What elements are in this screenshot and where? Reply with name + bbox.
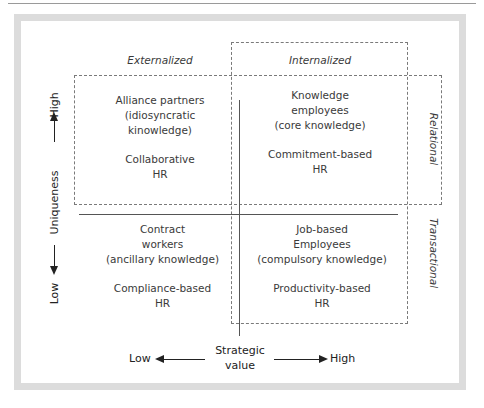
y-axis-arrow-up-line [54, 120, 55, 142]
quadrant-hr-line: Commitment-based [245, 147, 395, 162]
x-axis-label-line2: value [210, 358, 270, 373]
x-axis-arrow-left-line [163, 359, 205, 360]
row-header-transactional: Transactional [428, 203, 440, 303]
arrow-right-icon [319, 355, 328, 363]
x-axis-arrow-right-line [274, 359, 320, 360]
row-header-relational: Relational [428, 99, 440, 179]
quadrant-hr-line: Compliance-based [90, 281, 235, 296]
quadrant-hr-line: Collaborative [90, 152, 230, 167]
quadrant-hr-line: HR [242, 296, 402, 311]
quadrant-title-line: (idiosyncratic [90, 108, 230, 123]
x-axis-low-label: Low [129, 352, 151, 365]
quadrant-hr-line: HR [90, 167, 230, 182]
quadrant-hr-line: HR [90, 296, 235, 311]
y-axis-label: Uniqueness [48, 175, 61, 235]
y-axis-arrow-down-line [54, 245, 55, 267]
quadrant-title-line: Employees [242, 237, 402, 252]
quadrant-title-line: kinowledge) [90, 123, 230, 138]
quadrant-title-line: Knowledge [245, 88, 395, 103]
quadrant-title-line: Job-based [242, 222, 402, 237]
x-axis-label-line1: Strategic [210, 343, 270, 358]
column-header-externalized: Externalized [90, 53, 230, 68]
quadrant-title-line: employees [245, 103, 395, 118]
y-axis-low-label: Low [48, 280, 61, 308]
quadrant-title-line: (compulsory knowledge) [242, 252, 402, 267]
quadrant-contract-workers: Contract workers (ancillary knowledge) C… [90, 222, 235, 311]
quadrant-title-line: Contract [90, 222, 235, 237]
arrow-down-icon [50, 266, 58, 275]
quadrant-hr-line: Productivity-based [242, 281, 402, 296]
horizontal-divider [79, 214, 398, 215]
x-axis-high-label: High [330, 352, 355, 365]
quadrant-alliance-partners: Alliance partners (idiosyncratic kinowle… [90, 93, 230, 182]
quadrant-title-line: Alliance partners [90, 93, 230, 108]
quadrant-title-line: (core knowledge) [245, 118, 395, 133]
quadrant-title-line: (ancillary knowledge) [90, 252, 235, 267]
top-rule [8, 3, 476, 4]
column-header-internalized: Internalized [250, 53, 390, 68]
quadrant-title-line: workers [90, 237, 235, 252]
x-axis-label: Strategic value [210, 343, 270, 373]
quadrant-job-based-employees: Job-based Employees (compulsory knowledg… [242, 222, 402, 311]
vertical-divider [239, 100, 240, 336]
quadrant-hr-line: HR [245, 162, 395, 177]
quadrant-knowledge-employees: Knowledge employees (core knowledge) Com… [245, 88, 395, 177]
